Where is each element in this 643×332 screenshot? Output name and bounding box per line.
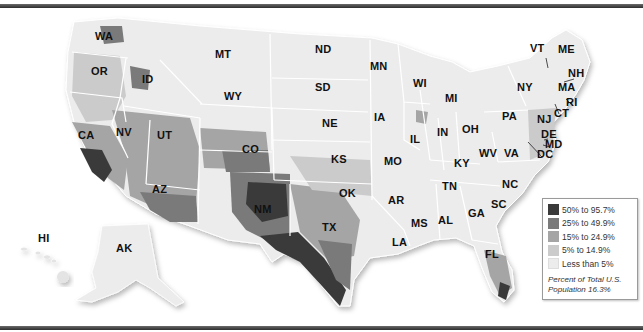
- state-label-nm: NM: [254, 203, 272, 215]
- state-label-nv: NV: [116, 126, 132, 138]
- state-label-wv: WV: [479, 147, 497, 159]
- legend-note-line1: Percent of Total U.S.: [548, 275, 633, 285]
- state-label-nh: NH: [568, 67, 584, 79]
- state-label-sd: SD: [315, 81, 331, 93]
- state-label-ut: UT: [157, 129, 172, 141]
- state-label-tn: TN: [442, 180, 457, 192]
- legend-swatch: [548, 245, 559, 256]
- state-label-vt: VT: [530, 42, 544, 54]
- state-label-oh: OH: [462, 123, 479, 135]
- legend-label: 25% to 49.9%: [562, 218, 615, 228]
- state-label-ia: IA: [374, 111, 385, 123]
- alaska-shape: [76, 224, 184, 306]
- state-label-fl: FL: [485, 248, 499, 260]
- state-label-mo: MO: [384, 155, 402, 167]
- state-label-va: VA: [504, 147, 519, 159]
- legend-item: 50% to 95.7%: [548, 203, 633, 217]
- state-label-me: ME: [558, 43, 575, 55]
- state-label-mi: MI: [445, 92, 458, 104]
- state-label-nj: NJ: [537, 113, 551, 125]
- map-legend: 50% to 95.7% 25% to 49.9% 15% to 24.9% 5…: [542, 198, 638, 300]
- bottom-rule: [0, 326, 643, 330]
- state-label-ny: NY: [517, 81, 533, 93]
- legend-swatch: [548, 231, 559, 242]
- legend-label: Less than 5%: [562, 259, 614, 269]
- state-label-wi: WI: [413, 77, 427, 89]
- state-label-mn: MN: [370, 60, 388, 72]
- state-label-mt: MT: [215, 48, 231, 60]
- state-label-ak: AK: [116, 242, 132, 254]
- state-label-ok: OK: [339, 187, 356, 199]
- state-label-nc: NC: [502, 178, 518, 190]
- state-label-wa: WA: [95, 30, 113, 42]
- state-label-ga: GA: [468, 207, 485, 219]
- state-label-dc: DC: [537, 148, 553, 160]
- state-label-nd: ND: [315, 43, 331, 55]
- state-label-ar: AR: [388, 194, 404, 206]
- legend-swatch: [548, 204, 559, 215]
- state-label-il: IL: [410, 133, 420, 145]
- legend-item: 15% to 24.9%: [548, 230, 633, 244]
- legend-swatch: [548, 218, 559, 229]
- legend-item: 25% to 49.9%: [548, 217, 633, 231]
- state-label-ky: KY: [454, 157, 470, 169]
- state-label-la: LA: [392, 236, 407, 248]
- region-az-south: [140, 192, 198, 222]
- legend-item: 5% to 14.9%: [548, 244, 633, 258]
- state-label-pa: PA: [502, 110, 517, 122]
- state-label-ct: CT: [554, 107, 569, 119]
- legend-note: Percent of Total U.S. Population 16.3%: [548, 275, 633, 295]
- state-label-az: AZ: [152, 183, 167, 195]
- state-label-ca: CA: [78, 129, 94, 141]
- state-label-ne: NE: [322, 117, 338, 129]
- state-label-wy: WY: [224, 90, 242, 102]
- state-label-in: IN: [437, 126, 448, 138]
- legend-swatch: [548, 258, 559, 269]
- region-il-chicago: [416, 110, 428, 124]
- state-label-al: AL: [438, 214, 453, 226]
- hawaii-shape: [21, 247, 69, 283]
- legend-label: 50% to 95.7%: [562, 205, 615, 215]
- state-label-hi: HI: [38, 232, 49, 244]
- legend-label: 15% to 24.9%: [562, 232, 615, 242]
- state-label-or: OR: [91, 65, 108, 77]
- state-label-ks: KS: [331, 153, 347, 165]
- state-label-id: ID: [142, 73, 153, 85]
- state-label-ma: MA: [558, 81, 576, 93]
- legend-item: Less than 5%: [548, 257, 633, 271]
- legend-label: 5% to 14.9%: [562, 245, 610, 255]
- legend-note-line2: Population 16.3%: [548, 285, 633, 295]
- state-label-ms: MS: [411, 217, 428, 229]
- state-label-tx: TX: [322, 221, 336, 233]
- state-label-co: CO: [242, 143, 259, 155]
- state-label-sc: SC: [491, 198, 507, 210]
